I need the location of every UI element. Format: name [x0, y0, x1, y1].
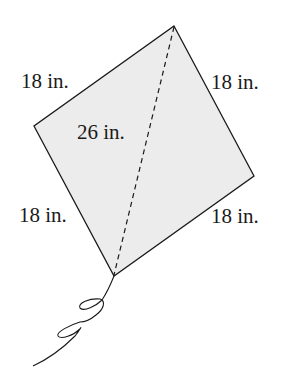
label-diagonal: 26 in.	[77, 120, 125, 144]
kite-diagram: 18 in. 18 in. 26 in. 18 in. 18 in.	[0, 0, 293, 391]
label-side-top-left: 18 in.	[21, 69, 69, 93]
label-side-bottom-left: 18 in.	[19, 203, 67, 227]
kite-figure: 18 in. 18 in. 26 in. 18 in. 18 in.	[0, 0, 293, 391]
kite-tail-string	[33, 276, 114, 366]
label-side-bottom-right: 18 in.	[211, 204, 259, 228]
label-side-top-right: 18 in.	[211, 70, 259, 94]
